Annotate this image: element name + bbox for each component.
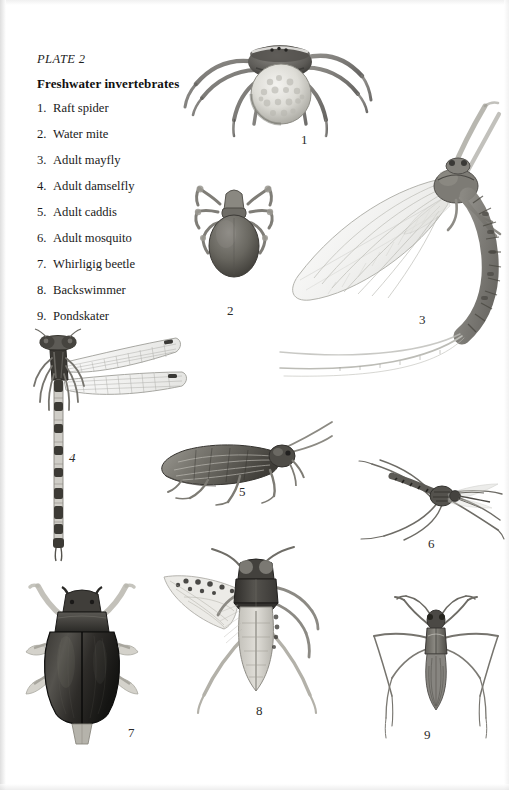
page-title: Freshwater invertebrates <box>37 76 179 92</box>
list-item-label: Backswimmer <box>53 283 207 297</box>
plate-page: PLATE 2 Freshwater invertebrates 1. Raft… <box>0 0 509 790</box>
list-item: 3. Adult mayfly <box>37 153 207 179</box>
list-item-label: Adult damselfly <box>53 179 207 193</box>
list-item-number: 9. <box>37 309 53 323</box>
figure-number-5: 5 <box>239 484 246 500</box>
figure-water-mite <box>192 180 276 295</box>
page-edge-bottom <box>0 784 509 790</box>
figure-number-7: 7 <box>128 725 135 741</box>
list-item: 6. Adult mosquito <box>37 231 207 257</box>
list-item-number: 5. <box>37 205 53 219</box>
list-item-label: Adult mosquito <box>53 231 207 245</box>
list-item-number: 2. <box>37 127 53 141</box>
figure-number-4: 4 <box>69 450 76 466</box>
list-item-label: Adult caddis <box>53 205 207 219</box>
figure-number-8: 8 <box>256 703 263 719</box>
list-item: 8. Backswimmer <box>37 283 207 309</box>
figure-pondskater <box>372 592 500 742</box>
plate-label: PLATE 2 <box>37 52 86 67</box>
figure-adult-mayfly <box>280 100 509 375</box>
list-item: 7. Whirligig beetle <box>37 257 207 283</box>
list-item-label: Whirligig beetle <box>53 257 207 271</box>
list-item-label: Pondskater <box>53 309 207 323</box>
figure-whirligig-beetle <box>22 582 147 747</box>
list-item-number: 1. <box>37 101 53 115</box>
page-edge-top <box>0 0 509 5</box>
figure-number-3: 3 <box>419 312 426 328</box>
list-item-number: 8. <box>37 283 53 297</box>
figure-backswimmer <box>160 545 330 715</box>
list-item-label: Adult mayfly <box>53 153 207 167</box>
figure-number-9: 9 <box>424 727 431 743</box>
list-item-number: 6. <box>37 231 53 245</box>
list-item-number: 4. <box>37 179 53 193</box>
list-item-number: 7. <box>37 257 53 271</box>
list-item: 4. Adult damselfly <box>37 179 207 205</box>
page-edge-left <box>0 0 6 790</box>
list-item-number: 3. <box>37 153 53 167</box>
figure-adult-mosquito <box>358 452 506 544</box>
figure-number-6: 6 <box>428 536 435 552</box>
list-item: 5. Adult caddis <box>37 205 207 231</box>
figure-number-2: 2 <box>227 303 234 319</box>
